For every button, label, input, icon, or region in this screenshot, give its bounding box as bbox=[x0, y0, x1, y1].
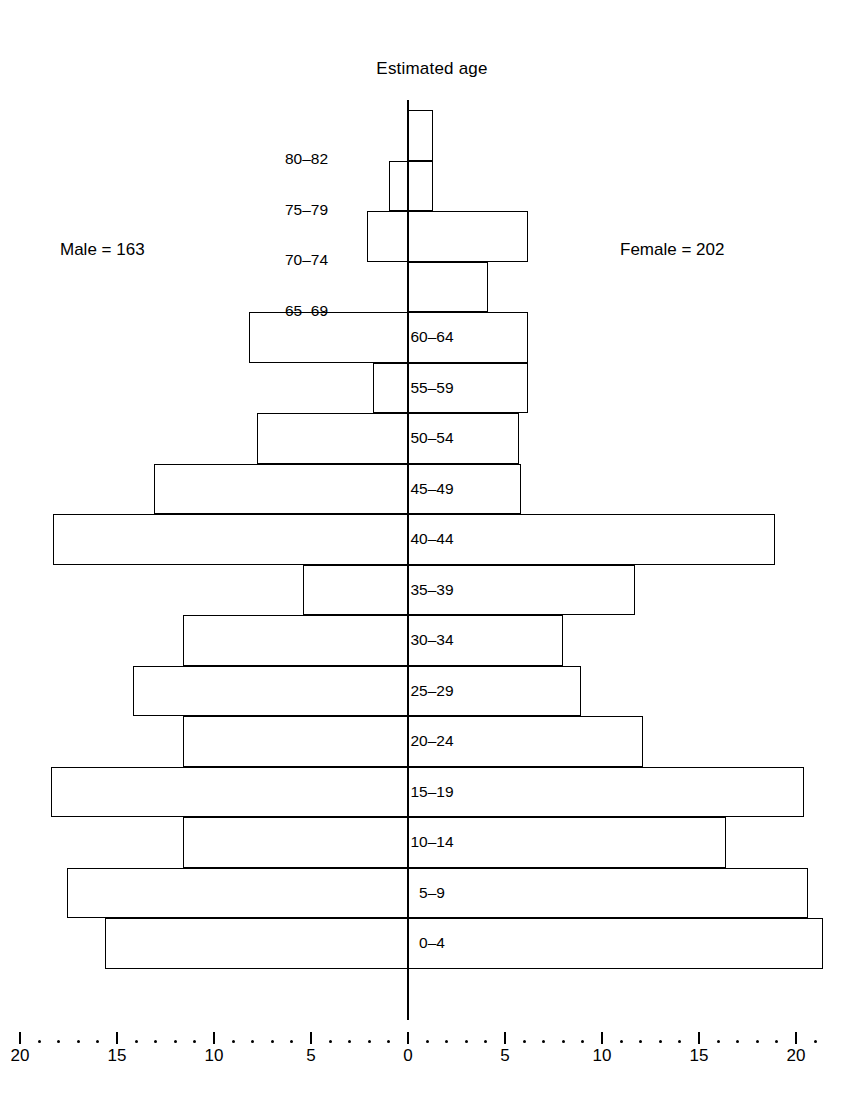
population-pyramid-figure: Estimated age Male = 163 Female = 202 80… bbox=[0, 0, 864, 1118]
axis-tick-minor bbox=[193, 1040, 196, 1043]
male-bar bbox=[389, 161, 408, 212]
axis-tick-major bbox=[310, 1032, 312, 1044]
axis-tick-minor bbox=[426, 1040, 429, 1043]
pyramid-row: 50–54 bbox=[0, 413, 864, 464]
pyramid-row: 70–74 bbox=[0, 211, 864, 262]
pyramid-row: 20–24 bbox=[0, 716, 864, 767]
male-bar bbox=[51, 767, 408, 818]
male-bar bbox=[367, 211, 408, 262]
axis-tick-minor bbox=[659, 1040, 662, 1043]
axis-tick-minor bbox=[465, 1040, 468, 1043]
pyramid-row: 25–29 bbox=[0, 666, 864, 717]
female-bar bbox=[408, 918, 823, 969]
female-bar bbox=[408, 363, 528, 414]
axis-tick-major bbox=[116, 1032, 118, 1044]
male-bar bbox=[183, 615, 408, 666]
axis-tick-label: 5 bbox=[306, 1046, 315, 1066]
chart-title: Estimated age bbox=[0, 59, 864, 79]
male-bar bbox=[133, 666, 408, 717]
axis-tick-major bbox=[795, 1032, 797, 1044]
axis-tick-label: 10 bbox=[205, 1046, 224, 1066]
axis-tick-minor bbox=[620, 1040, 623, 1043]
axis-tick-major bbox=[601, 1032, 603, 1044]
female-bar bbox=[408, 565, 635, 616]
female-bar bbox=[408, 110, 433, 161]
x-axis: 201510505101520 bbox=[0, 1032, 864, 1092]
axis-tick-minor bbox=[581, 1040, 584, 1043]
pyramid-row: 75–79 bbox=[0, 161, 864, 212]
male-bar bbox=[373, 363, 408, 414]
axis-tick-minor bbox=[484, 1040, 487, 1043]
axis-tick-minor bbox=[232, 1040, 235, 1043]
axis-tick-minor bbox=[717, 1040, 720, 1043]
axis-tick-minor bbox=[271, 1040, 274, 1043]
female-bar bbox=[408, 868, 808, 919]
male-bar bbox=[154, 464, 408, 515]
pyramid-row: 30–34 bbox=[0, 615, 864, 666]
male-bar bbox=[53, 514, 408, 565]
axis-tick-minor bbox=[348, 1040, 351, 1043]
axis-tick-minor bbox=[368, 1040, 371, 1043]
female-bar bbox=[408, 211, 528, 262]
axis-tick-minor bbox=[290, 1040, 293, 1043]
axis-tick-minor bbox=[251, 1040, 254, 1043]
axis-tick-minor bbox=[814, 1040, 817, 1043]
female-bar bbox=[408, 464, 521, 515]
axis-tick-label: 0 bbox=[403, 1046, 412, 1066]
axis-tick-label: 20 bbox=[11, 1046, 30, 1066]
axis-tick-minor bbox=[38, 1040, 41, 1043]
pyramid-plot-area: 80–8275–7970–7465–6960–6455–5950–5445–49… bbox=[0, 100, 864, 1020]
pyramid-row: 0–4 bbox=[0, 918, 864, 969]
female-bar bbox=[408, 413, 519, 464]
axis-tick-major bbox=[407, 1032, 409, 1044]
male-bar bbox=[257, 413, 408, 464]
pyramid-row: 45–49 bbox=[0, 464, 864, 515]
axis-tick-minor bbox=[542, 1040, 545, 1043]
axis-tick-minor bbox=[174, 1040, 177, 1043]
female-bar bbox=[408, 312, 528, 363]
male-bar bbox=[183, 817, 408, 868]
axis-tick-major bbox=[19, 1032, 21, 1044]
axis-tick-label: 15 bbox=[690, 1046, 709, 1066]
axis-tick-minor bbox=[154, 1040, 157, 1043]
female-bar bbox=[408, 161, 433, 212]
axis-tick-minor bbox=[96, 1040, 99, 1043]
female-bar bbox=[408, 666, 581, 717]
pyramid-row: 80–82 bbox=[0, 110, 864, 161]
axis-tick-minor bbox=[387, 1040, 390, 1043]
pyramid-row: 65–69 bbox=[0, 262, 864, 313]
axis-tick-label: 10 bbox=[593, 1046, 612, 1066]
pyramid-row: 5–9 bbox=[0, 868, 864, 919]
axis-tick-label: 5 bbox=[500, 1046, 509, 1066]
female-bar bbox=[408, 514, 775, 565]
female-bar bbox=[408, 767, 804, 818]
pyramid-row: 60–64 bbox=[0, 312, 864, 363]
male-bar bbox=[183, 716, 408, 767]
axis-tick-minor bbox=[77, 1040, 80, 1043]
pyramid-row: 35–39 bbox=[0, 565, 864, 616]
male-bar bbox=[249, 312, 408, 363]
axis-tick-minor bbox=[678, 1040, 681, 1043]
axis-tick-minor bbox=[639, 1040, 642, 1043]
female-bar bbox=[408, 262, 488, 313]
axis-tick-label: 15 bbox=[108, 1046, 127, 1066]
axis-tick-minor bbox=[135, 1040, 138, 1043]
male-bar bbox=[67, 868, 408, 919]
axis-tick-major bbox=[213, 1032, 215, 1044]
axis-tick-major bbox=[698, 1032, 700, 1044]
pyramid-row: 55–59 bbox=[0, 363, 864, 414]
female-bar bbox=[408, 716, 643, 767]
pyramid-row: 10–14 bbox=[0, 817, 864, 868]
axis-tick-major bbox=[504, 1032, 506, 1044]
axis-tick-minor bbox=[775, 1040, 778, 1043]
axis-tick-minor bbox=[736, 1040, 739, 1043]
axis-tick-minor bbox=[523, 1040, 526, 1043]
axis-tick-minor bbox=[445, 1040, 448, 1043]
male-bar bbox=[303, 565, 408, 616]
pyramid-row: 15–19 bbox=[0, 767, 864, 818]
axis-tick-label: 20 bbox=[787, 1046, 806, 1066]
axis-tick-minor bbox=[756, 1040, 759, 1043]
female-bar bbox=[408, 615, 563, 666]
axis-tick-minor bbox=[57, 1040, 60, 1043]
male-bar bbox=[105, 918, 408, 969]
